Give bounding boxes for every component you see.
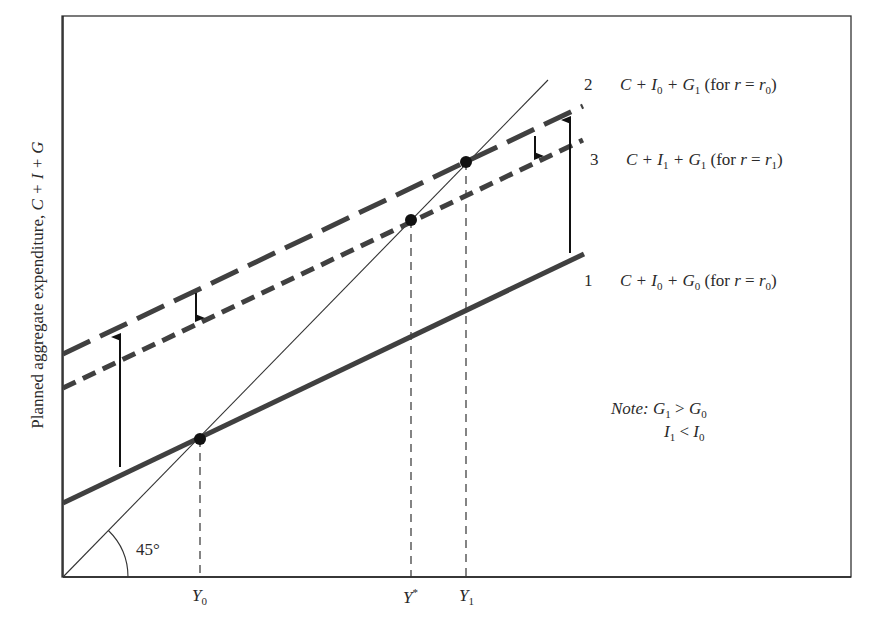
legend-line-3-term-a: C + I: [626, 150, 663, 169]
legend-line-1-close: ): [771, 271, 777, 290]
legend-line-1-for: (for: [700, 271, 734, 290]
y-axis-label-text: Planned aggregate expenditure,: [28, 211, 47, 429]
tick-ystar-sup: *: [412, 586, 418, 598]
tick-ystar: Y*: [403, 587, 418, 606]
legend-line-1-term-b: + G: [662, 271, 694, 290]
tick-y1: Y1: [459, 587, 474, 607]
legend-line-3-eq: =: [747, 150, 765, 169]
legend-line-3: 3C + I1 + G1 (for r = r1): [590, 151, 783, 171]
legend-line-2: 2C + I0 + G1 (for r = r0): [584, 76, 777, 96]
tick-y1-sub: 1: [468, 595, 474, 607]
legend-line-3-close: ): [777, 150, 783, 169]
legend-line-2-r: r: [734, 75, 741, 94]
note-g0: G: [689, 399, 701, 418]
legend-line-2-r-val: r: [759, 75, 766, 94]
note-line-2: I1 < I0: [664, 421, 704, 448]
note-g0-sub: 0: [701, 408, 707, 420]
legend-line-2-term-a: C + I: [620, 75, 657, 94]
equilibrium-dot-y0: [194, 433, 206, 445]
legend-line-1-number: 1: [584, 272, 620, 289]
legend-line-3-r: r: [740, 150, 747, 169]
tick-y0-sub: 0: [201, 595, 207, 607]
tick-y0: Y0: [192, 587, 207, 607]
note-lt: <: [675, 422, 693, 441]
equilibrium-dot-y1: [460, 156, 472, 168]
note-i0-sub: 0: [699, 431, 705, 443]
note-g1: G: [653, 399, 665, 418]
legend-line-2-number: 2: [584, 76, 620, 93]
legend-line-2-close: ): [771, 75, 777, 94]
y-axis-label-var: C + I + G: [28, 141, 47, 210]
note-gt: >: [671, 399, 689, 418]
angle-label: 45°: [136, 541, 160, 558]
45-degree-line: [63, 80, 548, 577]
legend-line-2-eq: =: [741, 75, 759, 94]
legend-line-2-term-b: + G: [662, 75, 694, 94]
angle-arc: [108, 531, 128, 578]
line-2-long-dash: [63, 106, 583, 354]
legend-line-1: 1C + I0 + G0 (for r = r0): [584, 272, 777, 292]
legend-line-1-term-a: C + I: [620, 271, 657, 290]
legend-line-3-r-val: r: [765, 150, 772, 169]
note-prefix: Note:: [611, 399, 653, 418]
legend-line-1-r-val: r: [759, 271, 766, 290]
legend-line-3-term-b: + G: [668, 150, 700, 169]
legend-line-3-number: 3: [590, 151, 626, 168]
legend-line-3-for: (for: [706, 150, 740, 169]
line-3-short-dash: [63, 140, 583, 388]
legend-line-1-r: r: [734, 271, 741, 290]
line-1-solid: [63, 254, 584, 503]
figure: Planned aggregate expenditure, C + I + G…: [0, 0, 873, 628]
y-axis-label: Planned aggregate expenditure, C + I + G: [28, 141, 48, 428]
equilibrium-dot-ystar: [405, 214, 417, 226]
legend-line-1-eq: =: [741, 271, 759, 290]
legend-line-2-for: (for: [700, 75, 734, 94]
